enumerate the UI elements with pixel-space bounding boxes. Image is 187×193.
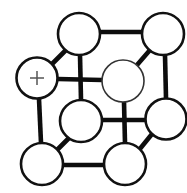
lattice-diagram <box>0 0 187 193</box>
bond-back-top-left-to-back-bottom-left <box>80 55 81 100</box>
atom-back-bottom-right <box>146 99 187 140</box>
lattice-canvas <box>0 0 187 193</box>
atom-front-bottom-left <box>21 143 63 185</box>
atom-center-face <box>102 60 144 102</box>
atom-front-bottom-right <box>104 143 146 185</box>
atom-back-top-left <box>58 13 100 55</box>
atom-back-top-right <box>142 13 184 55</box>
bond-back-top-right-to-back-bottom-right <box>165 55 166 98</box>
bond-front-top-left-to-front-bottom-left <box>39 99 41 143</box>
atom-back-bottom-left <box>60 100 102 142</box>
bond-center-face-to-front-bottom-right <box>124 102 125 143</box>
